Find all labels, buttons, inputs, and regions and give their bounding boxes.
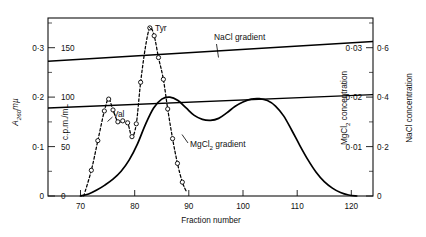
left-outer-tick-0-2: 0·2 — [32, 93, 44, 102]
data-point-marker — [96, 139, 100, 143]
data-point-marker — [156, 55, 160, 59]
right-outer-tick-0: 0 — [377, 192, 382, 201]
data-point-marker — [130, 135, 134, 139]
x-tick-90: 90 — [184, 202, 194, 211]
mgcl2-gradient-label-suffix: gradient — [213, 139, 246, 149]
radioactivity-markers — [89, 26, 184, 184]
val-peak-label: Val — [113, 109, 125, 119]
x-tick-120: 120 — [344, 202, 358, 211]
data-point-marker — [102, 109, 106, 113]
right-outer-axis-title: NaCl concentration — [405, 73, 414, 143]
x-axis-ticks — [81, 190, 352, 196]
mgcl2-gradient-label-mg: MgCl — [190, 139, 210, 149]
tyr-peak-label: Tyr — [155, 23, 167, 33]
chromatogram-figure: 0 50 100 150 0 0·1 0·2 0·3 A260mµ c.p.m.… — [0, 0, 426, 237]
x-axis-title: Fraction number — [181, 216, 241, 225]
left-outer-axis-title: A260mµ — [11, 98, 22, 127]
right-outer-tick-0-6: 0·6 — [377, 44, 389, 53]
data-point-marker — [126, 121, 130, 125]
left-outer-tick-0-1: 0·1 — [32, 143, 44, 152]
left-inner-axis-title: c.p.m./mL — [61, 104, 70, 140]
svg-text:MgCl2 concentration: MgCl2 concentration — [340, 71, 351, 145]
left-inner-tick-150: 150 — [61, 44, 75, 53]
left-outer-tick-0-3: 0·3 — [32, 44, 44, 53]
annotation-leaders — [108, 27, 219, 144]
nacl-gradient-line — [48, 41, 373, 61]
data-point-marker — [139, 80, 143, 84]
left-inner-tick-100: 100 — [61, 93, 75, 102]
radioactivity-curve — [84, 27, 187, 196]
left-inner-tick-0: 0 — [61, 192, 66, 201]
x-tick-80: 80 — [130, 202, 140, 211]
data-point-marker — [170, 137, 174, 141]
data-point-marker — [166, 107, 170, 111]
nacl-gradient-label: NaCl gradient — [214, 32, 266, 42]
right-outer-tick-0-2: 0·2 — [377, 143, 389, 152]
mgcl2-gradient-label: MgCl2 gradient — [190, 139, 246, 151]
x-tick-100: 100 — [236, 202, 250, 211]
right-outer-tick-0-4: 0·4 — [377, 93, 389, 102]
svg-text:A260mµ: A260mµ — [11, 98, 22, 127]
data-point-marker — [134, 122, 138, 126]
right-inner-axis-title: MgCl2 concentration — [340, 71, 351, 145]
data-point-marker — [152, 34, 156, 38]
data-point-marker — [121, 119, 125, 123]
chart-canvas: 0 50 100 150 0 0·1 0·2 0·3 A260mµ c.p.m.… — [0, 0, 426, 237]
left-inner-tick-50: 50 — [61, 143, 71, 152]
left-inner-axis-title-text: c.p.m./mL — [61, 104, 70, 140]
x-tick-110: 110 — [291, 202, 304, 211]
data-point-marker — [116, 120, 120, 124]
left-axis-title-suffix: mµ — [11, 98, 20, 110]
data-point-marker — [107, 97, 111, 101]
data-point-marker — [180, 180, 184, 184]
data-point-marker — [89, 168, 93, 172]
right-inner-axis-title-mg: MgCl — [340, 126, 349, 145]
right-inner-tick-0-03: 0·03 — [346, 44, 363, 53]
left-axis-ticks — [48, 23, 55, 196]
right-outer-axis-title-text: NaCl concentration — [405, 73, 414, 143]
data-point-marker — [161, 77, 165, 81]
x-tick-70: 70 — [76, 202, 86, 211]
data-point-marker — [175, 161, 179, 165]
right-axis-ticks — [366, 23, 373, 196]
left-axis-title-sub: 260 — [15, 109, 22, 121]
left-outer-tick-0: 0 — [39, 192, 44, 201]
mgcl2-gradient-line — [48, 95, 373, 108]
